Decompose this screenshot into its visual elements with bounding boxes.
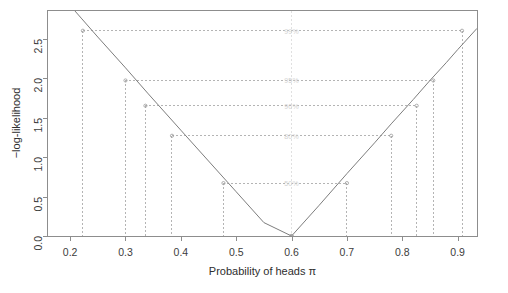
y-tick-label: 2.0 [32, 78, 44, 93]
y-tick-label: 0.5 [32, 197, 44, 212]
intersection-markers-layer [81, 29, 463, 236]
x-tick-mark [347, 237, 348, 241]
x-tick-mark [292, 237, 293, 241]
x-tick-mark [181, 237, 182, 241]
level-annotation: 80% [284, 132, 299, 139]
y-axis-title-wrap: −log-likelihood [0, 113, 86, 131]
x-tick-mark [402, 237, 403, 241]
x-tick-label: 0.6 [284, 246, 299, 258]
x-tick-label: 0.7 [340, 246, 355, 258]
guide-lines-layer [48, 11, 477, 236]
x-axis-title: Probability of heads π [47, 265, 478, 277]
level-annotation: 50% [284, 180, 299, 187]
curve-layer [48, 11, 477, 236]
x-tick-label: 0.4 [174, 246, 189, 258]
plot-frame [47, 10, 478, 237]
x-tick-mark [125, 237, 126, 241]
plot-area [48, 11, 477, 236]
y-tick-label: 2.5 [32, 39, 44, 54]
x-tick-label: 0.9 [450, 246, 465, 258]
x-tick-label: 0.3 [118, 246, 133, 258]
level-annotation: 95% [284, 77, 299, 84]
x-tick-label: 0.2 [63, 246, 78, 258]
x-tick-mark [70, 237, 71, 241]
likelihood-plot-svg [48, 11, 477, 236]
y-tick-label: 1.0 [32, 157, 44, 172]
y-axis-title: −log-likelihood [10, 88, 22, 159]
x-tick-mark [458, 237, 459, 241]
y-tick-label: 0.0 [32, 236, 44, 251]
level-annotation: 90% [284, 102, 299, 109]
x-tick-label: 0.8 [395, 246, 410, 258]
x-tick-mark [236, 237, 237, 241]
level-annotation: 99% [284, 27, 299, 34]
likelihood-chart-figure: 99%95%90%80%50% 0.20.30.40.50.60.70.80.9… [0, 0, 508, 293]
x-tick-label: 0.5 [229, 246, 244, 258]
